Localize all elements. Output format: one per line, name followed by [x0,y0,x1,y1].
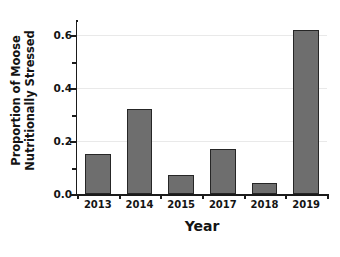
bar [293,30,319,194]
y-axis-title-line-1: Proportion of Moose [9,35,23,165]
y-axis-title: Proportion of Moose Nutritionally Stress… [10,30,37,170]
x-axis-tick-labels: 201320142015201720182019 [77,199,327,217]
x-axis-tick-mark [285,194,287,199]
x-axis-tick-label: 2015 [167,199,195,210]
x-axis-tick-label: 2018 [251,199,279,210]
y-axis-tick-mark [70,141,77,143]
gridline [77,35,327,36]
gridline [77,88,327,89]
x-axis-tick-label: 2013 [84,199,112,210]
y-axis-title-container: Proportion of Moose Nutritionally Stress… [0,0,46,200]
x-axis-tick-mark [327,194,329,199]
y-axis-tick-label: 0.2 [46,135,72,147]
gridline [77,141,327,142]
bar [210,149,236,194]
y-axis-minor-tick-mark [72,168,77,170]
plot-area [77,22,327,194]
x-axis-tick-label: 2017 [209,199,237,210]
y-axis-tick-label: 0.6 [46,29,72,41]
bar [85,154,111,194]
x-axis-tick-mark [202,194,204,199]
x-axis-tick-mark [119,194,121,199]
bar [252,183,278,194]
bar [127,109,153,194]
bar [168,175,194,194]
x-axis-tick-label: 2019 [292,199,320,210]
y-axis-tick-labels: 0.00.20.40.6 [44,0,72,257]
x-axis-title: Year [77,218,327,234]
y-axis-tick-mark [70,35,77,37]
x-axis-tick-mark [77,194,79,199]
x-axis-tick-mark [160,194,162,199]
y-axis-tick-mark [70,194,77,196]
y-axis-minor-tick-mark [72,115,77,117]
y-axis-tick-label: 0.0 [46,188,72,200]
y-axis-title-line-2: Nutritionally Stressed [23,30,37,170]
bar-chart-figure: Proportion of Moose Nutritionally Stress… [0,0,340,257]
y-axis-tick-label: 0.4 [46,82,72,94]
y-axis-minor-tick-mark [72,62,77,64]
x-axis-tick-mark [244,194,246,199]
y-axis-tick-mark [70,88,77,90]
x-axis-tick-label: 2014 [126,199,154,210]
